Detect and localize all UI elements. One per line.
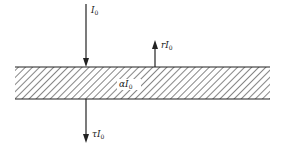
arrow-down-icon <box>83 58 89 67</box>
arrow-up-icon <box>152 40 158 49</box>
incident-label: I0 <box>91 6 98 16</box>
absorbed-label: αI0 <box>119 80 132 90</box>
arrow-down-icon <box>83 134 89 143</box>
reflected-arrow <box>152 40 158 67</box>
transmitted-arrow <box>83 99 89 143</box>
transmitted-label: τI0 <box>92 130 104 140</box>
diagram-canvas <box>0 0 284 153</box>
slab-hatch <box>15 67 270 99</box>
reflected-label: rI0 <box>161 41 173 51</box>
slab <box>15 67 270 99</box>
incident-arrow <box>83 4 89 67</box>
